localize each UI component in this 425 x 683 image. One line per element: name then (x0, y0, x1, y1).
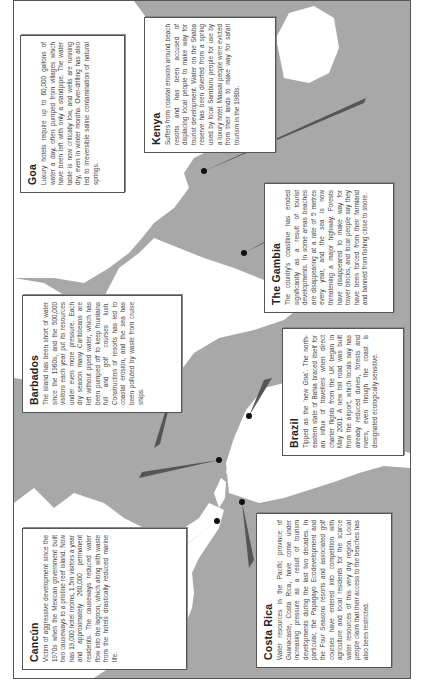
location-pin-brazil (246, 413, 252, 419)
callout-text: Suffers from coastal erosion around beac… (164, 24, 241, 145)
callout-text: Victim of aggressive development since t… (42, 535, 119, 662)
location-pin-kenya (241, 250, 247, 256)
callout-title: The Gambia (270, 190, 282, 305)
callout-brazil: Brazil Tipped as the 'new Goa'. The nort… (282, 328, 404, 456)
rotated-page: Cancún Victim of aggressive development … (0, 0, 425, 683)
callout-title: Barbados (28, 302, 40, 405)
location-pin-goa (201, 168, 207, 174)
callout-text: The country's coastline has eroded signi… (284, 190, 370, 305)
callout-goa: Goa Luxury hotels require up to 60,000 g… (20, 35, 125, 193)
callout-text: Tipped as the 'new Goa'. The north-easte… (302, 335, 379, 448)
pointer-barbados (139, 460, 219, 478)
callout-cancun: Cancún Victim of aggressive development … (22, 528, 187, 670)
callout-text: The island has been short of water since… (42, 302, 145, 405)
callout-costa-rica: Costa Rica Water resources in the Pacifi… (256, 513, 392, 668)
location-pin-cancun (214, 518, 220, 524)
callout-kenya: Kenya Suffers from coastal erosion aroun… (144, 17, 276, 153)
australia-landmass (276, 6, 339, 83)
callout-text: Luxury hotels require up to 60,000 gallo… (40, 42, 100, 185)
callout-text: Water resources in the Pacific province … (276, 520, 371, 660)
location-pin-barbados (216, 457, 222, 463)
callout-title: Costa Rica (262, 520, 274, 660)
world-map: Cancún Victim of aggressive development … (13, 0, 411, 679)
callout-the-gambia: The Gambia The country's coastline has e… (264, 183, 394, 313)
callout-title: Goa (26, 42, 38, 185)
pointer-costa-rica (242, 502, 254, 568)
callout-title: Cancún (28, 535, 40, 662)
callout-barbados: Barbados The island has been short of wa… (22, 295, 182, 413)
location-pin-costa-rica (239, 499, 245, 505)
callout-title: Brazil (288, 335, 300, 448)
callout-title: Kenya (150, 24, 162, 145)
